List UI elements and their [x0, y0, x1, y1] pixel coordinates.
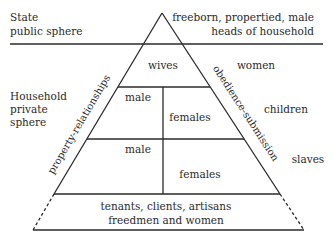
left-dashed-edge: [33, 194, 54, 230]
women-label: women: [237, 59, 275, 71]
sphere-label: sphere: [10, 116, 46, 128]
lower-male-label: male: [125, 143, 151, 155]
pyramid-diagram: State public sphere Household private sp…: [0, 0, 334, 239]
pyramid-left-edge: [54, 13, 162, 194]
slaves-label: slaves: [292, 153, 325, 165]
state-label: State: [10, 11, 38, 23]
household-label: Household: [10, 90, 67, 102]
children-label: children: [264, 103, 308, 115]
upper-females-label: females: [169, 111, 210, 123]
pyramid-right-edge: [162, 13, 280, 194]
property-relationships-label: property-relationships: [46, 73, 113, 176]
public-sphere-label: public sphere: [10, 25, 82, 37]
private-label: private: [10, 103, 48, 115]
wives-label: wives: [148, 59, 178, 71]
right-dashed-edge: [280, 194, 304, 230]
lower-females-label: females: [179, 168, 220, 180]
upper-male-label: male: [125, 91, 151, 103]
base-label-line1: tenants, clients, artisans: [100, 200, 231, 212]
heads-label-line2: heads of household: [211, 25, 314, 37]
heads-label-line1: freeborn, propertied, male: [172, 11, 314, 23]
base-label-line2: freedmen and women: [108, 214, 224, 226]
